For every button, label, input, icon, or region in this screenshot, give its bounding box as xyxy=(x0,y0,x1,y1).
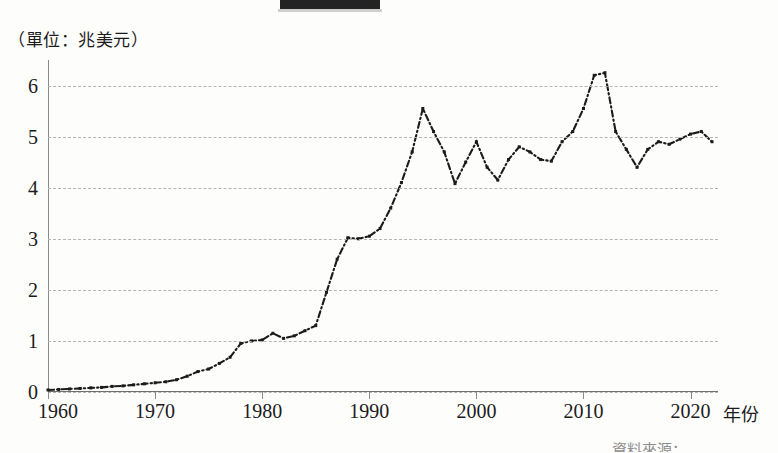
gridline-y-0 xyxy=(48,392,718,393)
data-point-1987 xyxy=(336,258,339,261)
plot-area: 01234561960197019801990200020102020 xyxy=(48,60,718,392)
data-point-2006 xyxy=(539,158,542,161)
data-point-2021 xyxy=(700,130,703,133)
data-point-1977 xyxy=(229,356,232,359)
y-tick-label-4: 4 xyxy=(28,178,38,198)
gridline-y-6 xyxy=(48,86,718,87)
data-point-1996 xyxy=(432,130,435,133)
data-point-1966 xyxy=(111,385,114,388)
data-point-1985 xyxy=(314,324,317,327)
gridline-y-4 xyxy=(48,188,718,189)
data-point-1960 xyxy=(47,388,50,391)
data-point-1970 xyxy=(154,381,157,384)
x-tick-label-2010: 2010 xyxy=(563,401,603,421)
x-tick-mark-2020 xyxy=(691,392,692,399)
data-point-2019 xyxy=(678,138,681,141)
data-point-1998 xyxy=(453,182,456,185)
data-point-2004 xyxy=(518,145,521,148)
data-point-2011 xyxy=(593,74,596,77)
y-tick-label-3: 3 xyxy=(28,229,38,249)
data-point-2001 xyxy=(486,166,489,169)
gridline-y-1 xyxy=(48,341,718,342)
data-point-1994 xyxy=(411,150,414,153)
data-point-1965 xyxy=(100,386,103,389)
x-axis-title: 年份 xyxy=(723,400,759,426)
gridline-y-3 xyxy=(48,239,718,240)
y-tick-label-5: 5 xyxy=(28,127,38,147)
data-point-2012 xyxy=(603,71,606,74)
data-point-1961 xyxy=(57,388,60,391)
data-point-1972 xyxy=(175,378,178,381)
x-tick-mark-2010 xyxy=(583,392,584,399)
y-tick-label-0: 0 xyxy=(28,382,38,402)
data-point-2003 xyxy=(507,158,510,161)
data-point-2018 xyxy=(668,143,671,146)
x-tick-mark-1960 xyxy=(48,392,49,399)
data-point-2013 xyxy=(614,130,617,133)
data-point-2015 xyxy=(636,166,639,169)
x-tick-label-1980: 1980 xyxy=(242,401,282,421)
source-note: 資料來源： xyxy=(612,438,687,452)
data-point-1969 xyxy=(143,382,146,385)
x-tick-mark-1980 xyxy=(262,392,263,399)
unit-label: （單位：兆美元） xyxy=(8,26,148,51)
cropped-header-bar-shadow xyxy=(278,9,382,12)
series-polyline xyxy=(48,73,712,390)
gridline-y-2 xyxy=(48,290,718,291)
x-tick-mark-1970 xyxy=(155,392,156,399)
data-point-1968 xyxy=(132,383,135,386)
figure-canvas: （單位：兆美元） 0123456196019701980199020002010… xyxy=(0,0,778,453)
x-tick-label-1960: 1960 xyxy=(38,401,78,421)
data-point-2017 xyxy=(657,140,660,143)
data-point-2016 xyxy=(646,148,649,151)
data-point-2008 xyxy=(561,140,564,143)
data-point-1963 xyxy=(79,387,82,390)
y-tick-label-1: 1 xyxy=(28,331,38,351)
data-point-2010 xyxy=(582,107,585,110)
x-tick-mark-1990 xyxy=(369,392,370,399)
data-point-2020 xyxy=(689,133,692,136)
data-point-1990 xyxy=(368,235,371,238)
data-point-1983 xyxy=(293,334,296,337)
data-point-1975 xyxy=(207,368,210,371)
x-tick-label-1970: 1970 xyxy=(135,401,175,421)
data-point-1992 xyxy=(389,207,392,210)
data-point-1982 xyxy=(282,337,285,340)
data-point-1967 xyxy=(121,384,124,387)
data-point-1964 xyxy=(89,386,92,389)
x-tick-label-1990: 1990 xyxy=(349,401,389,421)
data-point-2009 xyxy=(571,130,574,133)
data-point-1971 xyxy=(164,380,167,383)
y-tick-label-2: 2 xyxy=(28,280,38,300)
data-point-1978 xyxy=(239,342,242,345)
x-tick-mark-2000 xyxy=(476,392,477,399)
gridline-y-5 xyxy=(48,137,718,138)
data-point-2000 xyxy=(475,140,478,143)
data-point-2002 xyxy=(496,179,499,182)
data-point-2022 xyxy=(711,140,714,143)
y-tick-label-6: 6 xyxy=(28,76,38,96)
data-series-line xyxy=(48,60,718,392)
data-point-1973 xyxy=(186,375,189,378)
data-point-2005 xyxy=(528,150,531,153)
data-point-1981 xyxy=(271,332,274,335)
x-tick-label-2000: 2000 xyxy=(456,401,496,421)
data-point-1974 xyxy=(196,370,199,373)
data-point-2007 xyxy=(550,160,553,163)
data-point-1991 xyxy=(379,227,382,230)
data-point-1986 xyxy=(325,291,328,294)
data-point-1999 xyxy=(464,161,467,164)
data-point-1995 xyxy=(421,107,424,110)
data-point-1993 xyxy=(400,181,403,184)
data-point-1976 xyxy=(218,362,221,365)
x-tick-label-2020: 2020 xyxy=(671,401,711,421)
data-point-1997 xyxy=(443,150,446,153)
data-point-2014 xyxy=(625,148,628,151)
data-point-1962 xyxy=(68,387,71,390)
data-point-1984 xyxy=(304,329,307,332)
